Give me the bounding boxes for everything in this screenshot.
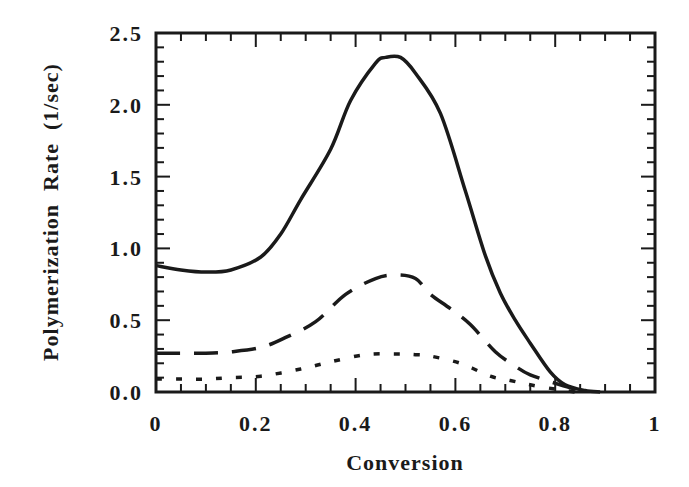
y-tick-label: 2.0 (110, 93, 144, 118)
y-tick-label: 1.5 (110, 165, 144, 190)
data-series (156, 56, 600, 392)
x-tick-label: 0.6 (439, 411, 473, 436)
y-tick-label: 0.0 (110, 380, 144, 405)
polymerization-rate-chart: 00.20.40.60.81 0.00.51.01.52.02.5 Conver… (0, 0, 689, 487)
y-tick-label: 2.5 (110, 21, 144, 46)
series-dashed-line (156, 275, 585, 392)
y-tick-label: 0.5 (110, 308, 144, 333)
y-axis-title: Polymerization Rate (1/sec) (38, 63, 63, 361)
series-dotted-line (156, 354, 575, 392)
x-tick-labels: 00.20.40.60.81 (150, 411, 662, 436)
x-tick-label: 0 (150, 411, 163, 436)
x-axis-title: Conversion (346, 450, 464, 475)
x-tick-label: 0.8 (538, 411, 572, 436)
series-solid-line (156, 56, 600, 392)
plot-frame (156, 33, 655, 392)
y-tick-labels: 0.00.51.01.52.02.5 (110, 21, 144, 405)
x-tick-label: 0.2 (239, 411, 273, 436)
y-tick-label: 1.0 (110, 236, 144, 261)
x-tick-label: 1 (649, 411, 662, 436)
axis-ticks (156, 33, 655, 392)
x-tick-label: 0.4 (339, 411, 373, 436)
